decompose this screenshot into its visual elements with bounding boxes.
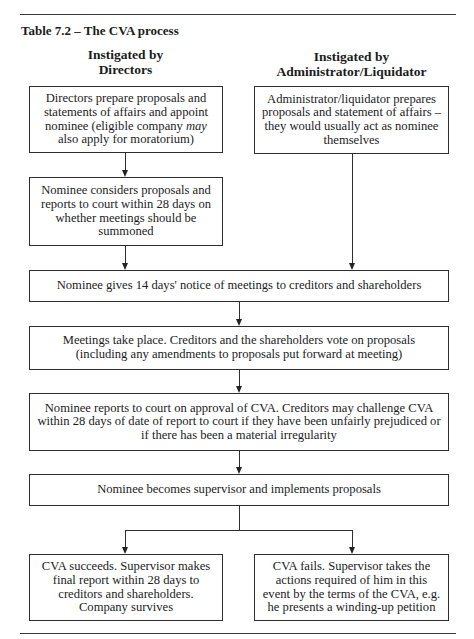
arrow-down-icon [236,319,242,326]
right-column-header: Instigated by Administrator/Liquidator [254,49,449,79]
connector-supervisor-trunk [239,506,240,530]
directors-prepare-emphasis: may [186,119,207,133]
directors-prepare-text-end: also apply for moratorium) [58,132,194,146]
connector-notice-to-meetings [239,302,240,320]
arrow-down-icon [349,263,355,270]
arrow-down-icon [349,547,355,554]
connector-branch-left [125,530,126,548]
left-header-line1: Instigated by [29,47,222,62]
nominee-reports-box: Nominee reports to court on approval of … [29,393,449,451]
left-column-header: Instigated by Directors [29,47,222,77]
becomes-supervisor-text: Nominee becomes supervisor and implement… [97,483,381,497]
arrow-down-icon [236,467,242,474]
directors-prepare-text-start: Directors prepare proposals and statemen… [44,91,208,132]
becomes-supervisor-box: Nominee becomes supervisor and implement… [29,474,449,506]
directors-prepare-box: Directors prepare proposals and statemen… [29,86,223,153]
connector-branch-right [352,530,353,548]
notice-of-meetings-text: Nominee gives 14 days' notice of meeting… [57,279,422,293]
connector-directors-to-nominee [125,153,126,171]
cva-succeeds-box: CVA succeeds. Supervisor makes final rep… [29,554,223,621]
nominee-considers-text: Nominee considers proposals and reports … [36,184,216,238]
meetings-take-place-box: Meetings take place. Creditors and the s… [29,326,449,370]
connector-meetings-to-reports [239,370,240,387]
nominee-considers-box: Nominee considers proposals and reports … [29,177,223,246]
cva-succeeds-text: CVA succeeds. Supervisor makes final rep… [36,560,216,614]
cva-fails-box: CVA fails. Supervisor takes the actions … [254,554,449,621]
connector-reports-to-supervisor [239,451,240,468]
connector-administrator-to-notice [352,154,353,264]
top-rule [20,14,456,15]
right-header-line1: Instigated by [254,49,449,64]
right-header-line2: Administrator/Liquidator [254,64,449,79]
meetings-take-place-text: Meetings take place. Creditors and the s… [36,334,442,361]
table-title: Table 7.2 – The CVA process [21,23,179,39]
connector-nominee-to-notice [125,246,126,264]
left-header-line2: Directors [29,62,222,77]
nominee-reports-text: Nominee reports to court on approval of … [36,402,442,443]
bottom-rule [20,633,456,634]
administrator-prepares-text: Administrator/liquidator prepares propos… [261,93,442,147]
arrow-down-icon [122,263,128,270]
cva-fails-text: CVA fails. Supervisor takes the actions … [261,560,442,614]
arrow-down-icon [122,170,128,177]
arrow-down-icon [122,547,128,554]
directors-prepare-text: Directors prepare proposals and statemen… [36,92,216,146]
administrator-prepares-box: Administrator/liquidator prepares propos… [254,86,449,154]
connector-branch-horizontal [125,530,353,531]
notice-of-meetings-box: Nominee gives 14 days' notice of meeting… [29,270,449,302]
arrow-down-icon [236,386,242,393]
